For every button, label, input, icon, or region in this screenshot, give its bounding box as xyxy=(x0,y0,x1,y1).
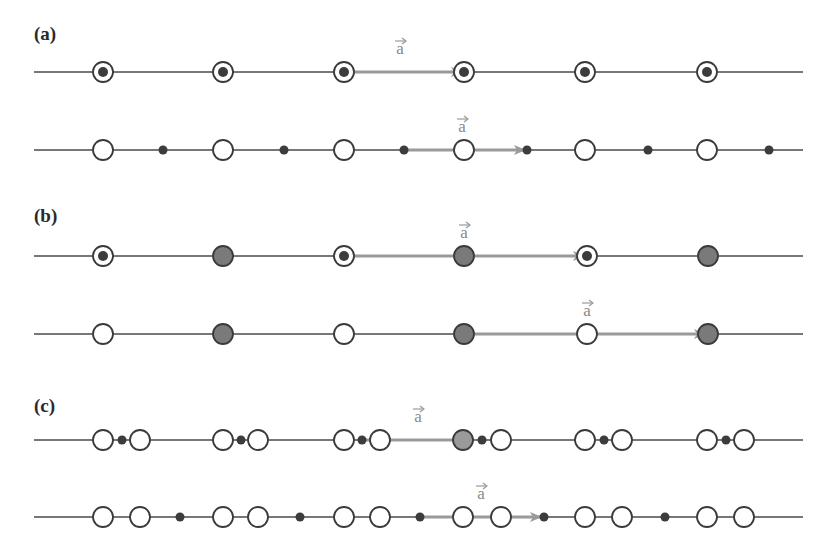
atom-open xyxy=(213,507,233,527)
atom-open xyxy=(334,324,354,344)
atom-core-dot xyxy=(98,67,108,77)
atom-open xyxy=(491,507,511,527)
atom-open xyxy=(248,507,268,527)
lattice-point-dot xyxy=(118,436,127,445)
lattice-point-dot xyxy=(765,146,774,155)
atom-open xyxy=(697,430,717,450)
atom-open xyxy=(334,507,354,527)
atom-core-dot xyxy=(459,67,469,77)
atom-gray-light xyxy=(453,430,473,450)
atom-open xyxy=(213,430,233,450)
atom-open xyxy=(130,507,150,527)
atom-open xyxy=(697,507,717,527)
panel-label: (b) xyxy=(34,205,57,227)
lattice-point-dot xyxy=(280,146,289,155)
panel-label: (a) xyxy=(34,23,56,45)
lattice-point-dot xyxy=(722,436,731,445)
atom-open xyxy=(93,140,113,160)
atom-open xyxy=(93,430,113,450)
svg-text:a: a xyxy=(477,484,485,503)
vector-label: a xyxy=(476,483,487,503)
atom-open xyxy=(453,507,473,527)
vector-label: a xyxy=(413,406,424,426)
lattice-point-dot xyxy=(644,146,653,155)
atom-core-dot xyxy=(702,67,712,77)
atom-gray xyxy=(454,246,474,266)
atom-open xyxy=(334,430,354,450)
atom-open xyxy=(93,324,113,344)
atom-gray xyxy=(213,246,233,266)
atom-core-dot xyxy=(218,67,228,77)
labels: (a)aa(b)aa(c)aa xyxy=(34,23,593,503)
atom-open xyxy=(248,430,268,450)
atom-gray xyxy=(454,324,474,344)
vector-label: a xyxy=(457,116,468,136)
atom-gray xyxy=(213,324,233,344)
lattice-point-dot xyxy=(540,513,549,522)
lattice-point-dot xyxy=(400,146,409,155)
atom-core-dot xyxy=(98,251,108,261)
lattice-point-dot xyxy=(159,146,168,155)
atom-core-dot xyxy=(339,67,349,77)
svg-text:a: a xyxy=(396,39,404,58)
vector-label: a xyxy=(459,222,470,242)
lattice-point-dot xyxy=(416,513,425,522)
atom-open xyxy=(93,507,113,527)
atom-open xyxy=(454,140,474,160)
svg-text:a: a xyxy=(458,117,466,136)
atom-open xyxy=(697,140,717,160)
lattice-atoms xyxy=(93,62,774,527)
atom-open xyxy=(130,430,150,450)
lattice-point-dot xyxy=(661,513,670,522)
panel-label: (c) xyxy=(34,395,55,417)
atom-gray xyxy=(698,246,718,266)
atom-open xyxy=(575,430,595,450)
lattice-lines xyxy=(34,72,803,517)
lattice-point-dot xyxy=(176,513,185,522)
lattice-point-dot xyxy=(296,513,305,522)
lattice-point-dot xyxy=(600,436,609,445)
atom-open xyxy=(734,507,754,527)
atom-open xyxy=(370,430,390,450)
atom-core-dot xyxy=(580,67,590,77)
atom-open xyxy=(575,507,595,527)
lattice-point-dot xyxy=(523,146,532,155)
atom-core-dot xyxy=(582,251,592,261)
atom-open xyxy=(612,430,632,450)
lattice-point-dot xyxy=(478,436,487,445)
vector-label: a xyxy=(395,38,406,58)
vector-label: a xyxy=(582,300,593,320)
svg-text:a: a xyxy=(583,301,591,320)
atom-open xyxy=(491,430,511,450)
atom-open xyxy=(334,140,354,160)
atom-open xyxy=(370,507,390,527)
atom-open xyxy=(612,507,632,527)
translation-vectors xyxy=(344,72,705,517)
svg-text:a: a xyxy=(414,407,422,426)
atom-open xyxy=(575,140,595,160)
lattice-point-dot xyxy=(358,436,367,445)
atom-core-dot xyxy=(339,251,349,261)
lattice-point-dot xyxy=(237,436,246,445)
atom-open xyxy=(213,140,233,160)
lattice-diagram: (a)aa(b)aa(c)aa xyxy=(0,0,830,555)
atom-gray xyxy=(698,324,718,344)
atom-open xyxy=(577,324,597,344)
svg-text:a: a xyxy=(460,223,468,242)
atom-open xyxy=(734,430,754,450)
